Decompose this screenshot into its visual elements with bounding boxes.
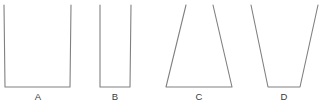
shape-label-c: C — [195, 92, 202, 102]
shape-outline-a — [4, 5, 71, 87]
shape-outline-d — [251, 5, 318, 87]
shape-diagram-canvas — [0, 0, 325, 104]
shape-outline-b — [100, 5, 131, 87]
shape-label-a: A — [35, 92, 42, 102]
shape-label-d: D — [280, 92, 287, 102]
shape-label-b: B — [112, 92, 119, 102]
figure-container: A B C D — [0, 0, 325, 104]
shape-outline-c — [166, 5, 232, 87]
